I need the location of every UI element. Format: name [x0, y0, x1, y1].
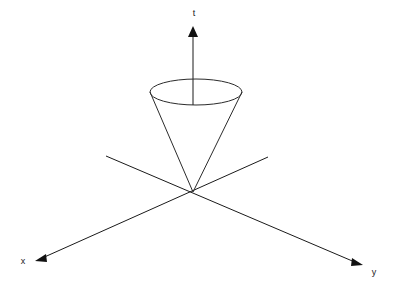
- x-axis-label: x: [21, 256, 26, 266]
- canvas-background: [0, 0, 399, 293]
- y-axis-label: y: [372, 267, 377, 277]
- light-cone-diagram: x y t: [0, 0, 399, 293]
- light-cone-canvas: x y t: [0, 0, 399, 293]
